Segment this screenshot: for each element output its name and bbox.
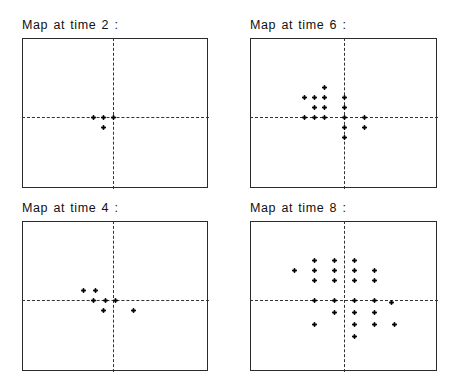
data-point xyxy=(312,105,317,110)
data-point xyxy=(322,105,327,110)
axis-horizontal-dashed xyxy=(22,117,209,118)
data-point xyxy=(131,308,136,313)
axis-vertical-dashed xyxy=(344,38,345,189)
panel-map-time-8: Map at time 8 : xyxy=(250,201,437,371)
data-point xyxy=(332,258,337,263)
data-point xyxy=(372,310,377,315)
data-point xyxy=(302,95,307,100)
axis-horizontal-dashed xyxy=(250,300,438,301)
plot-frame-time-8 xyxy=(250,221,437,371)
panel-map-time-2: Map at time 2 : xyxy=(22,18,208,188)
data-point xyxy=(312,258,317,263)
data-point xyxy=(292,268,297,273)
data-point xyxy=(392,322,397,327)
data-point xyxy=(352,258,357,263)
plot-frame-time-6 xyxy=(250,38,437,188)
data-point xyxy=(332,268,337,273)
axis-horizontal-dashed xyxy=(22,300,209,301)
data-point xyxy=(312,322,317,327)
data-point xyxy=(362,125,367,130)
data-point xyxy=(332,278,337,283)
data-point xyxy=(93,288,98,293)
data-point xyxy=(332,310,337,315)
data-point xyxy=(352,310,357,315)
figure-canvas: Map at time 2 : Map at time 6 : xyxy=(0,0,452,388)
panel-title-time-6: Map at time 6 : xyxy=(250,18,346,32)
axis-vertical-dashed xyxy=(344,221,345,372)
axis-vertical-dashed xyxy=(113,221,114,372)
panel-title-time-2: Map at time 2 : xyxy=(22,18,118,32)
axis-vertical-dashed xyxy=(113,38,114,189)
data-point xyxy=(352,278,357,283)
data-point xyxy=(372,278,377,283)
data-point xyxy=(372,322,377,327)
panel-title-time-4: Map at time 4 : xyxy=(22,201,118,215)
plot-frame-time-4 xyxy=(22,221,208,371)
data-point xyxy=(322,85,327,90)
data-point xyxy=(352,322,357,327)
axis-horizontal-dashed xyxy=(250,117,438,118)
data-point xyxy=(352,268,357,273)
panel-map-time-4: Map at time 4 : xyxy=(22,201,208,371)
data-point xyxy=(312,268,317,273)
plot-frame-time-2 xyxy=(22,38,208,188)
data-point xyxy=(101,308,106,313)
data-point xyxy=(312,278,317,283)
panel-map-time-6: Map at time 6 : xyxy=(250,18,437,188)
data-point xyxy=(101,125,106,130)
data-point xyxy=(372,268,377,273)
data-point xyxy=(352,334,357,339)
panel-title-time-8: Map at time 8 : xyxy=(250,201,346,215)
data-point xyxy=(312,95,317,100)
data-point xyxy=(322,95,327,100)
data-point xyxy=(81,288,86,293)
